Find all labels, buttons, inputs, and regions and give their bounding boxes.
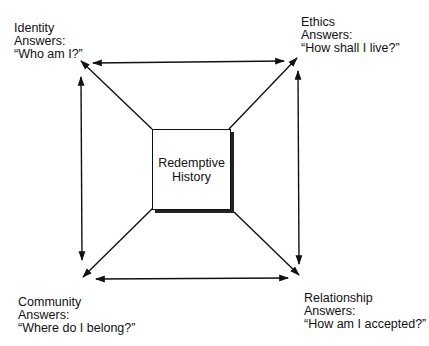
node-question: “Where do I belong?” [18,322,135,335]
node-question: “How shall I live?” [301,42,400,55]
arrow-ethics-relationship [298,71,299,264]
arrow-identity-ethics [93,61,284,63]
center-node-redemptive-history: Redemptive History [152,129,231,210]
node-ethics: Ethics Answers: “How shall I live?” [301,16,400,55]
arrow-community-relationship [96,278,288,279]
center-label-line1: Redemptive [158,156,225,170]
node-question: “How am I accepted?” [304,318,426,331]
center-label-line2: History [172,170,211,184]
node-identity: Identity Answers: “Who am I?” [14,22,83,61]
arrow-center-relationship [234,212,299,275]
arrow-center-ethics [229,58,297,129]
arrow-identity-community [81,77,82,260]
node-community: Community Answers: “Where do I belong?” [18,296,135,335]
node-question: “Who am I?” [14,48,83,61]
arrow-center-community [83,208,153,277]
node-relationship: Relationship Answers: “How am I accepted… [304,292,426,331]
arrow-center-identity [81,61,152,129]
